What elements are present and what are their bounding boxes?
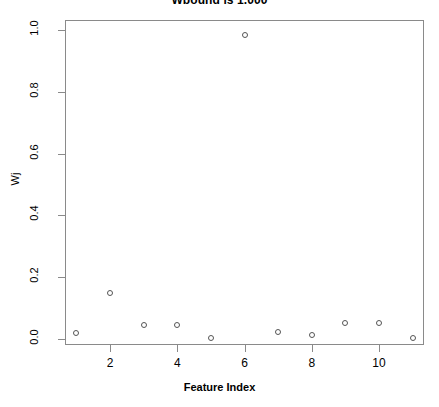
y-axis-tick xyxy=(58,277,65,278)
y-axis-tick xyxy=(58,339,65,340)
x-axis-tick-label: 10 xyxy=(364,356,394,370)
y-axis-tick xyxy=(58,215,65,216)
x-axis-tick xyxy=(110,345,111,352)
y-axis-tick xyxy=(58,92,65,93)
x-axis-tick-label: 4 xyxy=(162,356,192,370)
plot-frame xyxy=(65,20,424,345)
y-axis-tick xyxy=(58,30,65,31)
y-axis-label: Wj xyxy=(9,173,21,186)
y-axis-tick xyxy=(58,154,65,155)
y-axis-tick-label: 0.8 xyxy=(28,70,40,110)
x-axis-tick-label: 2 xyxy=(95,356,125,370)
y-axis-tick-label: 1.0 xyxy=(28,8,40,48)
x-axis-tick xyxy=(312,345,313,352)
y-axis-tick-label: 0.6 xyxy=(28,132,40,172)
x-axis-tick xyxy=(379,345,380,352)
x-axis-tick xyxy=(177,345,178,352)
x-axis-tick-label: 8 xyxy=(297,356,327,370)
y-axis-tick-label: 0.4 xyxy=(28,193,40,233)
x-axis-tick xyxy=(245,345,246,352)
chart-title: Wbound is 1.000 xyxy=(0,0,439,7)
scatter-plot-figure: Wbound is 1.000 0.00.20.40.60.81.0 24681… xyxy=(0,0,439,407)
x-axis-tick-label: 6 xyxy=(230,356,260,370)
y-axis-tick-label: 0.0 xyxy=(28,317,40,357)
y-axis-tick-label: 0.2 xyxy=(28,255,40,295)
x-axis-label: Feature Index xyxy=(0,381,439,393)
